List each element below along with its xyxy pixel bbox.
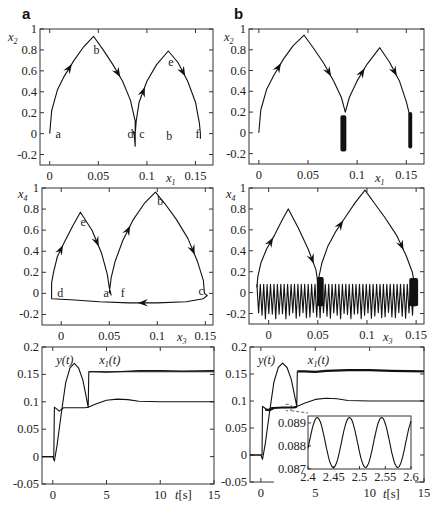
inset-x-tick-label: 2.45 <box>323 470 345 484</box>
chattering-band <box>408 112 412 148</box>
y-tick-label: 0.8 <box>23 202 39 216</box>
x-tick-label: 10 <box>154 488 167 502</box>
point-annotation: c <box>199 284 204 298</box>
inset-x-tick-label: 2.55 <box>374 470 396 484</box>
x-tick-label: 0 <box>50 488 56 502</box>
x-tick-label: 0.15 <box>185 169 207 183</box>
y-tick-label: 0.6 <box>23 223 39 237</box>
data-curve <box>259 35 411 133</box>
data-curve <box>257 190 414 287</box>
x-tick-label: 0.15 <box>395 168 417 182</box>
y-tick-label: 0.4 <box>230 84 246 98</box>
y-tick-label: 0.1 <box>23 395 39 409</box>
point-annotation: a <box>103 286 109 300</box>
plot-frame <box>42 347 214 484</box>
point-annotation: d <box>127 127 133 141</box>
point-annotation: b <box>166 129 172 143</box>
y-tick-label: 0.2 <box>21 106 37 120</box>
y-tick-label: -0.05 <box>221 475 247 489</box>
figure: a b 00.050.10.15-0.200.20.40.60.81abdceb… <box>0 0 441 516</box>
y-tick-label: 0.1 <box>231 394 247 408</box>
y-tick-label: 0.6 <box>230 223 246 237</box>
y-curve-chatter <box>297 370 424 372</box>
x-axis-label: x1 <box>165 171 176 187</box>
y-tick-label: 0.05 <box>17 422 39 436</box>
x-tick-label: 0.05 <box>98 329 120 343</box>
y-tick-label: 0.2 <box>23 340 39 354</box>
direction-arrow-icon <box>356 68 364 79</box>
zoom-connector <box>291 411 308 413</box>
y-tick-label: 0.4 <box>21 85 37 99</box>
y-tick-label: 0 <box>241 448 247 462</box>
x1-curve <box>42 399 214 457</box>
point-annotation: a <box>56 127 62 141</box>
y-axis-label: x4 <box>17 187 28 203</box>
plot-b-bot: 051015-0.0500.050.10.150.2y(t)x1(t)t[s]2… <box>221 340 430 501</box>
legend-x1: x1(t) <box>98 353 120 369</box>
x-tick-label: 0 <box>47 169 53 183</box>
plot-a-bot: 051015-0.0500.050.10.150.2y(t)x1(t)t[s] <box>13 340 220 502</box>
y-tick-label: 0 <box>33 450 39 464</box>
x-tick-label: 0.1 <box>149 329 165 343</box>
plot-frame <box>249 29 424 164</box>
y-tick-label: 0.4 <box>23 244 39 258</box>
x-tick-label: 0 <box>256 168 262 182</box>
y-tick-label: -0.2 <box>226 147 246 161</box>
direction-arrow-icon <box>63 64 72 75</box>
plot-b-mid: 00.050.10.15-0.200.20.40.60.81x3x4 <box>225 181 427 346</box>
panel-label-a: a <box>22 5 31 22</box>
plot-frame <box>40 29 213 165</box>
x-tick-label: 0 <box>58 329 64 343</box>
y-tick-label: 0.6 <box>230 64 246 78</box>
direction-arrow-icon <box>273 63 281 74</box>
y-tick-label: 0.2 <box>230 105 246 119</box>
point-annotation: c <box>139 127 144 141</box>
inset-y-tick-label: 0.088 <box>278 439 306 453</box>
x-tick-label: 0.1 <box>359 328 375 342</box>
panel-label-b: b <box>234 5 243 22</box>
inset-y-tick-label: 0.087 <box>278 462 306 476</box>
direction-arrow-icon <box>323 66 331 77</box>
x-tick-label: 0.05 <box>87 169 109 183</box>
direction-arrow-icon <box>335 221 344 231</box>
y-tick-label: -0.2 <box>19 307 39 321</box>
y-tick-label: 1 <box>240 181 246 195</box>
y-tick-label: 0.8 <box>230 202 246 216</box>
x-tick-label: 0.15 <box>194 329 216 343</box>
inset-y-tick-label: 0.089 <box>278 416 306 430</box>
oscillation-band <box>257 284 414 319</box>
y-tick-label: 1 <box>31 22 37 36</box>
y-tick-label: 0.2 <box>23 265 39 279</box>
x-tick-label: 0.1 <box>139 169 155 183</box>
x-axis-label: t[s] <box>383 487 400 501</box>
x-tick-label: 10 <box>363 486 376 500</box>
y-tick-label: 0.2 <box>230 265 246 279</box>
y-tick-label: 0 <box>33 286 39 300</box>
direction-arrow-icon <box>389 65 397 76</box>
x-axis-label: x3 <box>382 330 393 346</box>
y-tick-label: -0.2 <box>17 148 37 162</box>
chattering-band <box>340 115 346 151</box>
y-tick-label: 0 <box>240 126 246 140</box>
x-axis-label: x3 <box>176 330 187 346</box>
inset-x-tick-label: 2.5 <box>352 470 368 484</box>
y-tick-label: 0.05 <box>225 421 247 435</box>
y-tick-label: 0.6 <box>21 64 37 78</box>
plot-a-mid: 00.050.10.15-0.200.20.40.60.81ebdafcx3x4 <box>17 181 216 346</box>
x-tick-label: 0.05 <box>297 168 319 182</box>
x-tick-label: 0 <box>266 328 272 342</box>
plot-b-top: 00.050.10.15-0.200.20.40.60.81x1x2 <box>223 22 424 187</box>
inset-x-tick-label: 2.6 <box>403 470 419 484</box>
point-annotation: f <box>196 127 200 141</box>
y-curve <box>42 363 214 461</box>
y-axis-label: x4 <box>225 187 236 203</box>
y-tick-label: 1 <box>240 22 246 36</box>
plot-frame <box>42 188 213 325</box>
y-tick-label: 0.15 <box>225 367 247 381</box>
point-annotation: e <box>168 55 173 69</box>
y-tick-label: 0 <box>240 286 246 300</box>
legend-x1: x1(t) <box>307 353 329 369</box>
x-axis-label: t[s] <box>175 488 192 502</box>
direction-arrow-icon <box>177 66 185 77</box>
direction-arrow-icon <box>265 238 273 249</box>
